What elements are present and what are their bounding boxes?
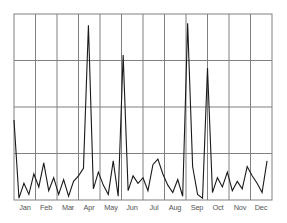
x-axis-tick-label-dec: Dec — [247, 203, 275, 212]
line-chart: JanFebMarAprMayJunJulAugSepOctNovDec — [0, 0, 287, 223]
chart-plot-area — [0, 0, 287, 223]
